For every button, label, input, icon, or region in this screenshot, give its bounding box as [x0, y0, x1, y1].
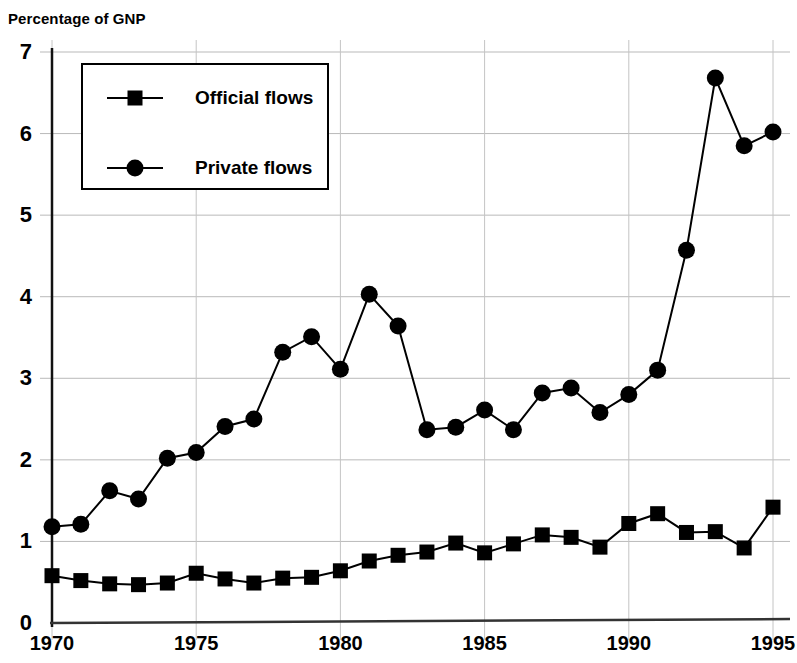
data-point-circle [591, 404, 608, 421]
data-point-circle [303, 328, 320, 345]
data-point-square [419, 545, 434, 560]
data-point-square [708, 524, 723, 539]
legend-label-official: Official flows [195, 87, 313, 109]
data-point-square [535, 527, 550, 542]
x-axis-line [50, 619, 790, 623]
y-tick-label: 5 [6, 202, 32, 228]
data-point-square [218, 571, 233, 586]
data-point-square [189, 566, 204, 581]
legend-item-private: Private flows [107, 157, 312, 179]
data-point-circle [332, 361, 349, 378]
data-point-circle [418, 421, 435, 438]
data-point-square [160, 576, 175, 591]
data-point-circle [765, 123, 782, 140]
data-point-circle [505, 421, 522, 438]
data-point-circle [274, 344, 291, 361]
data-point-circle [217, 418, 234, 435]
x-tick-label: 1995 [733, 632, 797, 655]
data-point-circle [736, 137, 753, 154]
data-point-square [564, 530, 579, 545]
data-point-square [333, 563, 348, 578]
data-point-circle [447, 419, 464, 436]
data-point-square [448, 536, 463, 551]
square-marker-icon [107, 88, 163, 108]
data-point-square [477, 545, 492, 560]
data-point-square [737, 540, 752, 555]
data-point-square [592, 540, 607, 555]
y-tick-label: 1 [6, 528, 32, 554]
data-point-circle [534, 384, 551, 401]
legend-label-private: Private flows [195, 157, 312, 179]
data-point-circle [476, 402, 493, 419]
data-point-square [102, 576, 117, 591]
chart-legend: Official flows Private flows [81, 63, 329, 190]
data-point-circle [620, 386, 637, 403]
data-point-square [391, 548, 406, 563]
y-tick-label: 2 [6, 447, 32, 473]
data-point-circle [678, 242, 695, 259]
data-point-square [766, 500, 781, 515]
data-point-circle [390, 318, 407, 335]
x-tick-label: 1975 [156, 632, 236, 655]
y-tick-label: 3 [6, 365, 32, 391]
data-point-square [506, 536, 521, 551]
data-point-square [246, 576, 261, 591]
data-point-circle [44, 518, 61, 535]
data-point-square [304, 570, 319, 585]
data-point-square [275, 571, 290, 586]
data-point-circle [188, 444, 205, 461]
circle-marker-icon [107, 158, 163, 178]
data-point-circle [361, 286, 378, 303]
data-point-circle [649, 362, 666, 379]
data-point-square [131, 577, 146, 592]
y-tick-label: 4 [6, 284, 32, 310]
data-point-circle [159, 450, 176, 467]
x-tick-label: 1980 [300, 632, 380, 655]
data-point-square [362, 554, 377, 569]
data-point-circle [130, 491, 147, 508]
data-point-square [73, 573, 88, 588]
data-point-square [650, 506, 665, 521]
legend-item-official: Official flows [107, 87, 313, 109]
data-point-square [45, 568, 60, 583]
data-point-circle [245, 411, 262, 428]
y-tick-label: 6 [6, 121, 32, 147]
x-tick-label: 1970 [12, 632, 92, 655]
data-point-circle [707, 70, 724, 87]
x-tick-label: 1985 [445, 632, 525, 655]
x-tick-label: 1990 [589, 632, 669, 655]
series-official-flows [45, 500, 781, 592]
chart-container: Percentage of GNP 01234567 1970197519801… [0, 0, 797, 663]
data-point-square [621, 516, 636, 531]
data-point-circle [72, 516, 89, 533]
y-tick-label: 7 [6, 39, 32, 65]
data-point-circle [101, 482, 118, 499]
data-point-square [679, 525, 694, 540]
data-point-circle [563, 380, 580, 397]
